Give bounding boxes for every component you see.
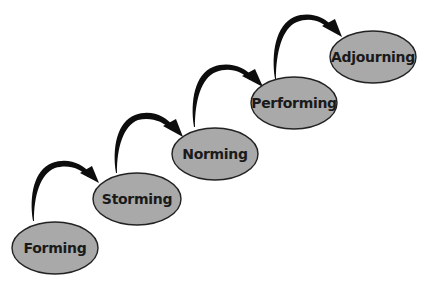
stage-label: Forming <box>24 240 87 256</box>
arrow-performing-to-adjourning <box>274 15 342 79</box>
curved-arrow-icon <box>193 65 253 127</box>
stage-forming: Forming <box>12 222 98 274</box>
stage-storming: Storming <box>93 173 181 225</box>
team-development-diagram: Forming Storming Norming Performing Adjo… <box>0 0 424 286</box>
stage-adjourning: Adjourning <box>330 31 416 83</box>
stage-performing: Performing <box>251 77 337 129</box>
stage-label: Performing <box>251 95 337 111</box>
curved-arrow-icon <box>115 113 174 173</box>
arrow-forming-to-storming <box>32 161 99 221</box>
curved-arrow-icon <box>274 15 333 79</box>
stage-norming: Norming <box>172 128 258 180</box>
stage-label: Adjourning <box>331 49 415 65</box>
curved-arrow-icon <box>32 161 91 221</box>
stage-label: Storming <box>102 191 172 207</box>
arrow-storming-to-norming <box>115 113 183 173</box>
stage-label: Norming <box>182 146 248 162</box>
